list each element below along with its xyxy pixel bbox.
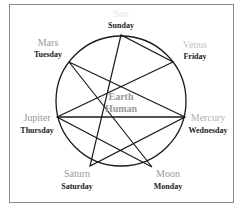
planet-label-venus: Venus [175, 40, 215, 50]
day-label-saturday: Saturday [55, 183, 99, 191]
day-label-thursday: Thursday [15, 127, 59, 135]
planet-label-jupiter: Jupiter [15, 113, 59, 123]
day-label-monday: Monday [148, 183, 188, 191]
planet-label-sun: Sun [106, 9, 136, 19]
day-label-sunday: Sunday [101, 22, 141, 30]
planet-label-saturn: Saturn [57, 169, 97, 179]
planet-label-mercury: Mercury [184, 113, 232, 123]
center-label-earth: Earth [101, 92, 141, 102]
day-label-friday: Friday [175, 53, 215, 61]
day-label-tuesday: Tuesday [28, 51, 68, 59]
planet-label-mars: Mars [28, 38, 68, 48]
planet-label-moon: Moon [148, 169, 188, 179]
center-label-human: Human [101, 104, 141, 114]
day-label-wednesday: Wednesday [184, 127, 232, 135]
